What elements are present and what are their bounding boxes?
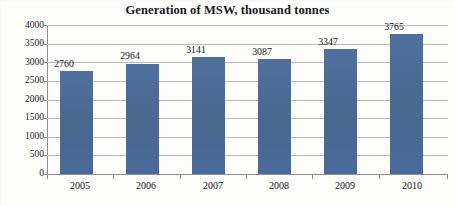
y-tick-label: 500 [4,150,44,159]
y-tick-label: 2500 [4,76,44,85]
data-label-2008: 3087 [240,47,284,57]
y-axis: 4000 3500 3000 2500 2000 1500 1000 500 0 [0,0,44,206]
gridline [47,100,448,101]
gridline [47,44,448,45]
bar-2005[interactable] [60,71,93,174]
x-tick-mark [113,175,114,179]
x-tick-mark [47,175,48,179]
y-tick-label: 1500 [4,113,44,122]
gridline [47,81,448,82]
gridline [47,137,448,138]
bar-2006[interactable] [126,64,159,174]
x-label-2006: 2006 [112,180,180,192]
x-tick-mark [447,175,448,179]
bar-2007[interactable] [192,57,225,174]
x-label-2009: 2009 [311,180,379,192]
y-tick-label: 0 [4,169,44,178]
x-tick-mark [180,175,181,179]
y-tick-label: 3000 [4,58,44,67]
gridline [47,62,448,63]
x-label-2010: 2010 [378,180,446,192]
y-tick-label: 2000 [4,95,44,104]
x-axis-line [47,174,448,175]
x-label-2005: 2005 [46,180,114,192]
gridline [47,155,448,156]
chart-title: Generation of MSW, thousand tonnes [0,3,455,18]
gridline [47,118,448,119]
y-tick-label: 3500 [4,39,44,48]
data-label-2009: 3347 [306,37,350,47]
y-tick-label: 4000 [4,21,44,30]
x-tick-mark [379,175,380,179]
bar-2009[interactable] [324,49,357,174]
x-label-2008: 2008 [245,180,313,192]
bar-chart: Generation of MSW, thousand tonnes 4000 … [0,0,455,206]
bar-2008[interactable] [258,59,291,174]
y-tick-label: 1000 [4,132,44,141]
data-label-2010: 3765 [372,22,416,32]
data-label-2005: 2760 [42,59,86,69]
bar-2010[interactable] [390,34,423,174]
x-tick-mark [246,175,247,179]
data-label-2006: 2964 [108,51,152,61]
data-label-2007: 3141 [174,45,218,55]
x-label-2007: 2007 [179,180,247,192]
x-tick-mark [312,175,313,179]
